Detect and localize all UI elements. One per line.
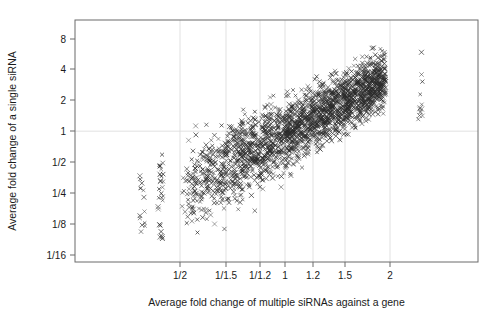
data-point bbox=[296, 98, 301, 103]
data-point bbox=[187, 187, 191, 191]
data-point bbox=[269, 107, 273, 111]
data-point bbox=[142, 188, 146, 192]
data-point bbox=[137, 173, 142, 178]
data-point bbox=[208, 213, 213, 218]
data-point bbox=[190, 219, 195, 224]
data-point bbox=[204, 210, 209, 215]
data-point bbox=[276, 174, 280, 178]
data-point bbox=[193, 123, 198, 128]
data-point bbox=[200, 215, 205, 220]
data-point bbox=[346, 120, 350, 124]
data-point bbox=[325, 139, 329, 143]
data-point bbox=[194, 133, 199, 138]
data-point bbox=[191, 149, 195, 153]
data-point bbox=[213, 197, 216, 200]
data-point bbox=[204, 123, 208, 127]
data-point bbox=[212, 133, 217, 138]
x-tick-label-6: 2 bbox=[387, 270, 393, 281]
data-point bbox=[211, 189, 215, 193]
data-point bbox=[376, 112, 380, 116]
data-point bbox=[183, 209, 188, 214]
data-point bbox=[195, 199, 198, 202]
x-axis: 1/21/1.51/1.211.21.52 bbox=[173, 262, 393, 281]
x-tick-label-2: 1/1.2 bbox=[249, 270, 272, 281]
data-point bbox=[157, 196, 160, 199]
data-point bbox=[243, 112, 247, 116]
data-point bbox=[360, 55, 364, 59]
plot-canvas: 1/21/1.51/1.211.21.5284211/21/41/81/16Av… bbox=[0, 0, 503, 317]
data-point bbox=[215, 201, 219, 205]
data-point bbox=[212, 222, 217, 227]
data-point bbox=[419, 72, 423, 76]
x-tick-label-5: 1.5 bbox=[338, 270, 352, 281]
data-point bbox=[186, 171, 190, 175]
data-point bbox=[353, 57, 357, 61]
data-point bbox=[270, 176, 275, 181]
data-point bbox=[159, 191, 163, 195]
data-point bbox=[219, 194, 224, 199]
data-point bbox=[297, 150, 301, 154]
data-point bbox=[379, 47, 383, 51]
data-point bbox=[181, 176, 185, 180]
data-point bbox=[291, 88, 295, 92]
data-point bbox=[185, 221, 189, 225]
data-point bbox=[249, 193, 254, 198]
x-tick-label-1: 1/1.5 bbox=[215, 270, 238, 281]
data-point bbox=[352, 64, 356, 68]
data-point bbox=[233, 193, 237, 197]
data-point bbox=[227, 200, 231, 204]
data-point bbox=[195, 159, 199, 163]
data-point bbox=[279, 185, 284, 190]
data-point bbox=[315, 74, 319, 78]
data-point bbox=[306, 84, 311, 89]
data-point bbox=[143, 224, 147, 228]
data-point bbox=[294, 94, 298, 98]
data-point bbox=[236, 207, 240, 211]
y-axis-title: Average fold change of a single siRNA bbox=[6, 51, 18, 231]
data-point bbox=[160, 153, 164, 157]
data-point bbox=[184, 166, 189, 171]
data-points bbox=[137, 46, 424, 241]
data-point bbox=[141, 195, 146, 200]
data-point bbox=[350, 125, 354, 129]
data-point bbox=[285, 89, 289, 93]
data-point bbox=[334, 134, 339, 139]
data-point bbox=[417, 113, 422, 118]
data-point bbox=[373, 52, 378, 57]
data-point bbox=[195, 217, 199, 221]
data-point bbox=[271, 119, 276, 124]
x-axis-title: Average fold change of multiple siRNAs a… bbox=[148, 296, 405, 308]
data-point bbox=[205, 217, 209, 221]
data-point bbox=[419, 93, 422, 96]
data-point bbox=[278, 157, 282, 161]
data-point bbox=[300, 166, 304, 170]
data-point bbox=[159, 229, 164, 234]
y-tick-label-2: 2 bbox=[60, 95, 66, 106]
x-tick-label-4: 1.2 bbox=[306, 270, 320, 281]
data-point bbox=[204, 142, 209, 147]
y-tick-label-4: 1/2 bbox=[52, 157, 66, 168]
y-tick-label-3: 1 bbox=[60, 126, 66, 137]
y-tick-label-0: 8 bbox=[60, 34, 66, 45]
data-point bbox=[139, 187, 142, 190]
data-point bbox=[253, 110, 257, 114]
data-point bbox=[190, 157, 194, 161]
data-point bbox=[138, 213, 143, 218]
data-point bbox=[416, 117, 420, 121]
data-point bbox=[317, 79, 321, 83]
data-point bbox=[241, 108, 245, 112]
data-point bbox=[202, 147, 206, 151]
data-point bbox=[186, 138, 191, 143]
data-point bbox=[419, 50, 424, 55]
data-point bbox=[266, 103, 270, 107]
y-tick-label-7: 1/16 bbox=[47, 250, 67, 261]
data-point bbox=[186, 215, 190, 219]
data-point bbox=[139, 229, 143, 233]
y-axis: 84211/21/41/81/16 bbox=[47, 34, 75, 261]
data-point bbox=[420, 80, 424, 84]
y-tick-label-5: 1/4 bbox=[52, 188, 66, 199]
data-point bbox=[209, 138, 213, 142]
data-point bbox=[217, 137, 221, 141]
data-point bbox=[181, 191, 185, 195]
data-point bbox=[138, 216, 142, 220]
